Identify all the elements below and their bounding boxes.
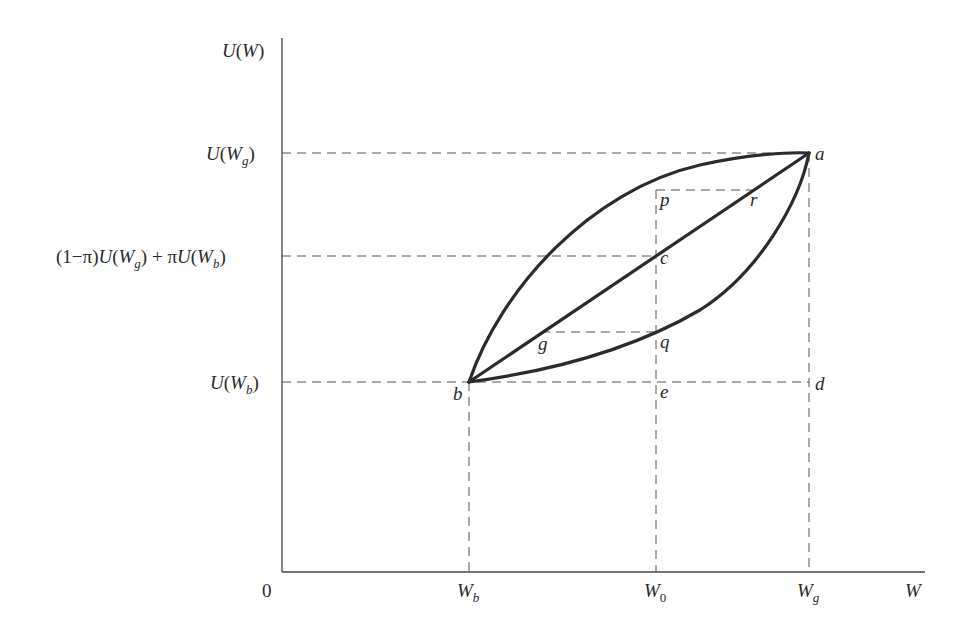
y-label-u-wg: U(Wg): [206, 143, 255, 168]
point-b-label: b: [453, 383, 463, 404]
x-origin-label: 0: [262, 580, 272, 601]
point-p-label: p: [658, 189, 670, 210]
x-label-wb: Wb: [457, 580, 480, 605]
point-a-label: a: [815, 143, 825, 164]
y-label-expected-utility: (1−π)U(Wg) + πU(Wb): [56, 246, 226, 271]
point-c-label: c: [660, 247, 669, 268]
utility-diagram: U(W) U(Wg) (1−π)U(Wg) + πU(Wb) U(Wb) 0 W…: [0, 0, 977, 639]
point-r-label: r: [750, 189, 758, 210]
point-g-label: g: [538, 333, 548, 354]
point-e-label: e: [660, 381, 668, 402]
point-d-label: d: [815, 373, 825, 394]
x-axis-title: W: [905, 580, 923, 601]
y-label-u-wb: U(Wb): [210, 372, 259, 397]
y-axis-title: U(W): [222, 40, 264, 62]
point-q-label: q: [660, 331, 670, 352]
x-label-wg: Wg: [797, 580, 820, 605]
x-label-w0: W0: [644, 580, 666, 605]
